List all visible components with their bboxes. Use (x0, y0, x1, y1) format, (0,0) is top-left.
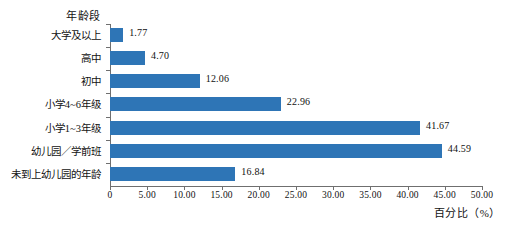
bar-series: 1.774.7012.0622.9641.6744.5916.84 (110, 24, 482, 186)
y-axis-tick (106, 140, 110, 141)
y-axis-tick (106, 70, 110, 71)
bar-row: 41.67 (110, 117, 482, 140)
category-label: 幼儿园／学前班 (31, 140, 101, 163)
bar-row: 1.77 (110, 24, 482, 47)
bar-value-label: 41.67 (426, 120, 450, 131)
bar-value-label: 44.59 (448, 143, 472, 154)
bar-row: 22.96 (110, 93, 482, 116)
x-axis-tick-label: 35.00 (359, 190, 381, 200)
x-axis-tick-label: 20.00 (248, 190, 270, 200)
chart-figure: 年龄段 大学及以上高中初中小学4~6年级小学1~3年级幼儿园／学前班未到上幼儿园… (0, 0, 515, 234)
x-axis-tick-label: 30.00 (322, 190, 344, 200)
x-axis-tick-label: 45.00 (434, 190, 456, 200)
bar (110, 97, 281, 111)
x-axis-tick-label: 10.00 (173, 190, 195, 200)
bar-row: 12.06 (110, 70, 482, 93)
y-axis-tick (106, 93, 110, 94)
bar-row: 44.59 (110, 140, 482, 163)
bar (110, 144, 442, 158)
bar-value-label: 1.77 (129, 27, 147, 38)
bar-row: 16.84 (110, 163, 482, 186)
bar-value-label: 12.06 (206, 73, 230, 84)
category-label: 大学及以上 (51, 24, 101, 47)
plot-area: 1.774.7012.0622.9641.6744.5916.84 (110, 24, 482, 186)
category-axis-labels: 大学及以上高中初中小学4~6年级小学1~3年级幼儿园／学前班未到上幼儿园的年龄 (0, 24, 105, 186)
x-axis-title: 百分比（%） (434, 204, 501, 220)
bar (110, 74, 200, 88)
bar-row: 4.70 (110, 47, 482, 70)
bar-value-label: 4.70 (151, 50, 169, 61)
y-axis-title: 年龄段 (66, 7, 101, 23)
figure-caption (0, 225, 515, 234)
category-label: 未到上幼儿园的年龄 (11, 163, 101, 186)
y-axis-tick (106, 117, 110, 118)
category-label: 小学4~6年级 (45, 93, 101, 116)
bar-value-label: 16.84 (241, 166, 265, 177)
x-axis-tick-label: 0 (108, 190, 113, 200)
x-axis-tick-label: 15.00 (210, 190, 232, 200)
bar (110, 121, 420, 135)
x-axis-tick-label: 5.00 (138, 190, 155, 200)
category-label: 初中 (81, 70, 101, 93)
category-label: 小学1~3年级 (45, 117, 101, 140)
x-axis-tick-label: 25.00 (285, 190, 307, 200)
y-axis-tick (106, 24, 110, 25)
x-axis-tick-label: 50.00 (471, 190, 493, 200)
y-axis-tick (106, 163, 110, 164)
category-label: 高中 (81, 47, 101, 70)
y-axis-tick (106, 47, 110, 48)
x-axis-tick-label: 40.00 (396, 190, 418, 200)
bar (110, 51, 145, 65)
bar (110, 167, 235, 181)
bar-value-label: 22.96 (287, 96, 311, 107)
bar (110, 28, 123, 42)
